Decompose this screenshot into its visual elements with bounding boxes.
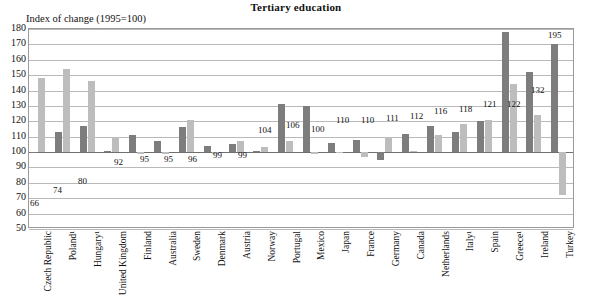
y-tick-label-110: 110 [2,131,26,141]
x-category-label: Turkey [566,231,576,258]
x-category-label: Sweden [193,231,203,261]
bar-group [153,29,178,227]
x-category-label: Mexico [317,231,327,260]
y-tick-label-80: 80 [2,177,26,187]
bar-group [426,29,451,227]
bar [559,152,566,195]
data-label: 74 [53,186,62,195]
data-label: 118 [459,105,472,114]
data-label: 104 [258,126,272,135]
x-category-label: Czech Republic [44,231,54,291]
bar [286,141,293,152]
bar [55,132,62,152]
x-category-label: Germany [392,231,402,266]
bar [30,152,37,153]
bar [385,137,392,152]
bar-group [550,29,575,227]
data-label: 111 [386,114,399,123]
y-tick-label-140: 140 [2,85,26,95]
bar-group [476,29,501,227]
x-category-label: Italy¹ [466,231,476,251]
bar-group [54,29,79,227]
bar [377,152,384,160]
bar [353,140,360,152]
data-label: 99 [238,151,247,160]
x-category-label: Spain [491,231,501,253]
bar [179,127,186,152]
bar [112,137,119,152]
bar [63,69,70,152]
bar-group [352,29,377,227]
bar-group [401,29,426,227]
data-label: 110 [336,116,349,125]
y-tick-label-50: 50 [2,223,26,233]
bar-group [525,29,550,227]
bar [502,32,509,152]
data-label: 95 [140,155,149,164]
x-category-label: Hungary¹ [94,231,104,267]
y-tick-label-60: 60 [2,208,26,218]
bar [328,143,335,152]
x-category-label: Canada [417,231,427,260]
y-tick-label-70: 70 [2,192,26,202]
x-axis-category-labels: Czech RepublicPoland¹Hungary¹United King… [28,231,574,307]
x-category-label: Finland [144,231,154,260]
y-tick-label-90: 90 [2,161,26,171]
bar [229,144,236,152]
bar [510,84,517,152]
data-label: 195 [548,31,562,40]
bar [534,115,541,152]
bar-group [376,29,401,227]
bar-group [451,29,476,227]
x-category-label: Denmark [218,231,228,266]
chart-root: Tertiary education Index of change (1995… [0,0,592,307]
data-label: 92 [114,158,123,167]
x-category-label: Ireland [541,231,551,258]
x-category-label: Greece¹ [516,231,526,261]
bar [278,104,285,152]
x-category-label: Japan [342,231,352,253]
bar [204,146,211,152]
bar [435,135,442,152]
x-category-label: Australia [169,231,179,266]
x-category-label: Portugal [293,231,303,263]
x-category-label: Netherlands [442,231,452,277]
data-label: 106 [286,121,300,130]
bar-group [79,29,104,227]
bar [361,152,368,157]
bar [402,134,409,152]
bar-group [501,29,526,227]
bar [129,135,136,152]
bar-group [203,29,228,227]
bar-group [178,29,203,227]
bar [38,78,45,152]
bar [551,44,558,152]
y-tick-label-170: 170 [2,38,26,48]
bar [460,124,467,152]
chart-title: Tertiary education [0,1,592,13]
data-label: 121 [483,100,497,109]
y-tick-label-180: 180 [2,23,26,33]
bar [410,151,417,153]
data-label: 96 [188,155,197,164]
data-label: 112 [410,112,423,121]
bar [427,126,434,152]
data-label: 66 [30,199,39,208]
bar [477,121,484,152]
bar [80,126,87,152]
y-tick-label-150: 150 [2,69,26,79]
bar-group [103,29,128,227]
plot-area [28,28,574,228]
data-label: 80 [78,177,87,186]
x-category-label: United Kingdom [119,231,129,295]
data-label: 99 [213,151,222,160]
x-category-label: Norway [268,231,278,262]
bar-group [128,29,153,227]
bar [311,152,318,154]
bar-group [327,29,352,227]
data-label: 100 [311,125,325,134]
bar [336,152,343,153]
data-label: 95 [164,155,173,164]
y-tick-label-160: 160 [2,54,26,64]
x-category-label: Poland¹ [69,231,79,260]
